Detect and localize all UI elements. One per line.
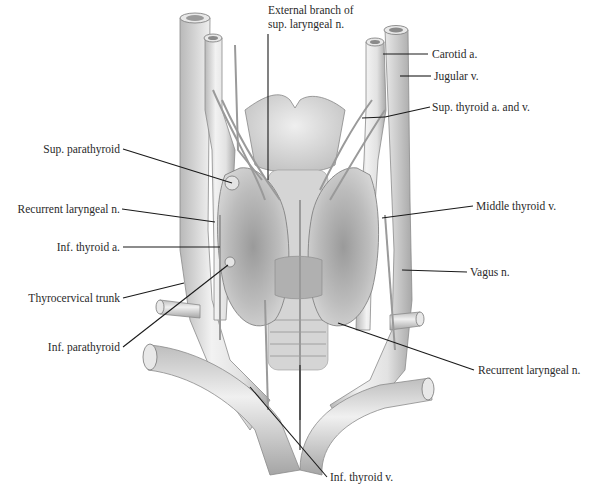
label-inf-thyroid-v: Inf. thyroid v. [330,471,393,484]
label-external-branch-line1: External branch of [268,4,354,17]
label-sup-thyroid-av: Sup. thyroid a. and v. [432,101,530,114]
label-sup-parathyroid: Sup. parathyroid [43,143,120,156]
label-external-branch-line2: sup. laryngeal n. [268,18,344,31]
label-inf-parathyroid: Inf. parathyroid [48,341,120,354]
thyroid-cartilage [245,95,345,173]
label-vagus: Vagus n. [470,266,510,279]
label-thyrocervical-trunk: Thyrocervical trunk [28,292,120,305]
anatomy-figure: External branch of sup. laryngeal n. Car… [0,0,592,487]
label-carotid: Carotid a. [432,48,477,61]
label-middle-thyroid-v: Middle thyroid v. [476,200,556,213]
label-recurrent-laryngeal-right: Recurrent laryngeal n. [478,364,581,377]
label-recurrent-laryngeal-left: Recurrent laryngeal n. [18,203,121,216]
label-jugular: Jugular v. [434,70,479,83]
label-inf-thyroid-a: Inf. thyroid a. [57,241,120,254]
